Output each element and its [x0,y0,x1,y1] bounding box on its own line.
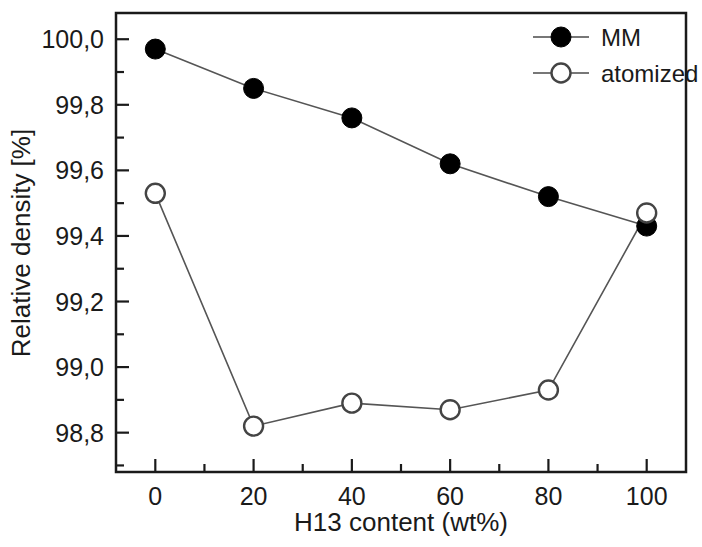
legend-label-atomized: atomized [601,60,698,87]
data-point-atomized-60 [441,400,460,419]
relative-density-line-chart: 98,899,099,299,499,699,8100,0 0204060801… [0,0,702,547]
data-point-atomized-0 [146,184,165,203]
y-tick-label: 99,6 [55,156,104,184]
x-axis-title: H13 content (wt%) [294,507,508,537]
y-tick-label: 98,8 [55,419,104,447]
y-tick-label: 99,0 [55,353,104,381]
x-tick-label: 60 [436,482,464,510]
y-axis-title: Relative density [%] [6,129,36,357]
legend-marker-atomized [552,64,571,83]
legend-marker-mm [551,27,571,47]
y-tick-label: 99,4 [55,222,104,250]
data-point-atomized-20 [244,417,263,436]
chart-figure: 98,899,099,299,499,699,8100,0 0204060801… [0,0,702,547]
y-tick-label: 100,0 [41,25,104,53]
legend-label-mm: MM [601,24,641,51]
data-point-mm-20 [244,78,264,98]
data-point-atomized-100 [637,203,656,222]
data-point-atomized-80 [539,381,558,400]
y-tick-label: 99,2 [55,288,104,316]
x-tick-label: 80 [535,482,563,510]
data-point-mm-40 [342,108,362,128]
data-point-mm-80 [538,187,558,207]
y-tick-label: 99,8 [55,91,104,119]
data-point-atomized-40 [342,394,361,413]
x-tick-label: 100 [626,482,668,510]
x-tick-label: 40 [338,482,366,510]
x-tick-label: 0 [148,482,162,510]
x-tick-label: 20 [240,482,268,510]
data-point-mm-60 [440,154,460,174]
data-point-mm-0 [145,39,165,59]
